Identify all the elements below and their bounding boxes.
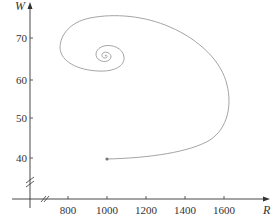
x-tick-label: 1400 bbox=[174, 204, 197, 216]
y-axis-label: W bbox=[15, 0, 26, 13]
start-point-marker bbox=[105, 157, 108, 160]
y-tick-label: 50 bbox=[16, 112, 28, 124]
x-axis-arrow-icon bbox=[263, 197, 270, 202]
x-tick-label: 1600 bbox=[213, 204, 236, 216]
phase-plot: W 70 60 50 40 R 800 1000 1200 1400 1600 bbox=[0, 0, 275, 221]
x-axis-label: R bbox=[262, 203, 271, 217]
y-tick-label: 70 bbox=[16, 32, 28, 44]
x-tick-label: 1200 bbox=[135, 204, 158, 216]
y-axis: W 70 60 50 40 bbox=[15, 0, 34, 208]
y-tick-label: 40 bbox=[16, 152, 28, 164]
y-tick-label: 60 bbox=[16, 74, 28, 86]
x-axis: R 800 1000 1200 1400 1600 bbox=[12, 196, 271, 217]
y-axis-arrow-icon bbox=[28, 2, 33, 9]
x-tick-label: 800 bbox=[60, 204, 77, 216]
trajectory-curve bbox=[60, 16, 229, 159]
x-tick-label: 1000 bbox=[96, 204, 119, 216]
